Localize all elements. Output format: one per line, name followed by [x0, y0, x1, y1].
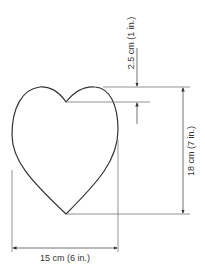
heart-pattern-diagram: 2.5 cm (1 in.) 18 cm (7 in.) 15 cm (6 in…: [0, 0, 205, 271]
heart-outline: [12, 87, 118, 214]
width-label: 15 cm (6 in.): [40, 253, 90, 263]
notch-depth-label: 2.5 cm (1 in.): [126, 17, 136, 70]
height-label: 18 cm (7 in.): [186, 126, 196, 176]
